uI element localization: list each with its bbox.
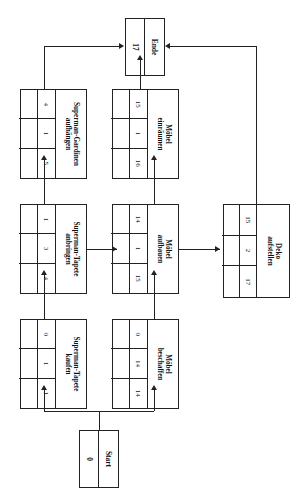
cell-sez bbox=[111, 264, 129, 293]
node-title-line1: Deko bbox=[274, 243, 282, 259]
arrowhead-start-to-moebel-beschaffen bbox=[151, 385, 157, 390]
arrowhead-tapete-kaufen-to-anbringen bbox=[41, 270, 47, 275]
node-title-line1: Möbel bbox=[164, 239, 172, 259]
cell-puffer bbox=[19, 234, 37, 263]
arrowhead-start-to-tapete-kaufen bbox=[41, 385, 47, 390]
edge-tapete-kaufen-to-anbringen bbox=[44, 273, 45, 319]
cell-saz bbox=[222, 205, 239, 236]
node-title: Möbel beschaffen bbox=[148, 320, 178, 408]
node-title-line2: kaufen bbox=[64, 353, 72, 374]
edge-aufbauen-to-einraeumen bbox=[154, 158, 155, 204]
edge-gardinen-to-ende-h bbox=[44, 46, 123, 47]
cell-saz bbox=[19, 90, 37, 119]
edge-start-bus bbox=[44, 411, 154, 412]
cell-dauer: 1 bbox=[37, 349, 55, 378]
node-start[interactable]: Start 0 bbox=[79, 430, 119, 488]
cell-puffer bbox=[19, 119, 37, 148]
node-value-grid: 15 1 16 bbox=[111, 90, 148, 178]
node-title-line2: aufhängen bbox=[64, 118, 72, 150]
node-title-line2: aufbauen bbox=[156, 235, 164, 264]
cell-dauer: 1 bbox=[37, 119, 55, 148]
cell-saz bbox=[111, 320, 129, 349]
cell-dauer: 14 bbox=[129, 349, 147, 378]
cell-dauer: 2 bbox=[239, 236, 256, 267]
edge-start-to-tapete-kaufen bbox=[44, 388, 45, 411]
cell-saz bbox=[111, 90, 129, 119]
node-moebel-aufbauen[interactable]: Möbel aufbauen 14 1 15 bbox=[112, 204, 179, 294]
cell-saz bbox=[111, 205, 129, 234]
cell-dauer: 1 bbox=[129, 234, 147, 263]
node-start-label: Start bbox=[100, 431, 119, 487]
cell-fez: 14 bbox=[129, 379, 147, 408]
cell-dauer: 1 bbox=[129, 119, 147, 148]
edge-anbringen-to-gardinen bbox=[44, 158, 45, 204]
node-ende[interactable]: Ende 17 bbox=[125, 18, 165, 76]
node-title: Superman-Tapete kaufen bbox=[56, 320, 86, 408]
cell-faz: 15 bbox=[129, 90, 147, 119]
node-start-value: 0 bbox=[80, 431, 100, 487]
edge-start-to-moebel-beschaffen bbox=[154, 388, 155, 411]
node-gardinen-aufhaengen[interactable]: Superman-Gardinen aufhängen 4 1 5 bbox=[20, 89, 87, 179]
edge-einraeumen-to-ende bbox=[140, 58, 141, 89]
node-title: Möbel aufbauen bbox=[148, 205, 178, 293]
node-title-line1: Möbel bbox=[164, 354, 172, 374]
node-title: Superman-Tapete anbringen bbox=[56, 205, 86, 293]
arrowhead-anbringen-to-aufbauen bbox=[112, 246, 117, 252]
node-value-grid: 15 2 17 bbox=[222, 205, 257, 297]
node-tapete-kaufen[interactable]: Superman-Tapete kaufen 0 1 1 bbox=[20, 319, 87, 409]
cell-sez bbox=[222, 266, 239, 297]
cell-fez: 17 bbox=[239, 266, 256, 297]
node-title-line1: Möbel bbox=[164, 124, 172, 144]
node-title: Deko aufstellen bbox=[257, 205, 289, 297]
cell-faz: 4 bbox=[37, 90, 55, 119]
node-ende-value: 17 bbox=[126, 19, 146, 75]
node-title-line2: beschaffen bbox=[156, 348, 164, 381]
node-value-grid: 0 14 14 bbox=[111, 320, 148, 408]
cell-fez: 15 bbox=[129, 264, 147, 293]
arrowhead-aufbauen-to-deko bbox=[215, 246, 220, 252]
cell-dauer: 3 bbox=[37, 234, 55, 263]
node-title: Möbel einräumen bbox=[148, 90, 178, 178]
cell-faz: 15 bbox=[239, 205, 256, 236]
edge-beschaffen-to-aufbauen bbox=[154, 273, 155, 319]
edge-deko-to-ende-v bbox=[256, 46, 257, 204]
cell-faz: 1 bbox=[37, 205, 55, 234]
cell-sez bbox=[19, 149, 37, 178]
node-title-line1: Superman-Tapete bbox=[72, 222, 80, 277]
node-title-line2: aufstellen bbox=[266, 236, 274, 266]
arrowhead-gardinen-to-ende bbox=[119, 43, 124, 49]
cell-puffer bbox=[111, 349, 129, 378]
node-title-line1: Superman-Tapete bbox=[72, 337, 80, 392]
arrowhead-aufbauen-to-einraeumen bbox=[151, 155, 157, 160]
cell-puffer bbox=[111, 119, 129, 148]
cell-sez bbox=[19, 264, 37, 293]
cell-fez: 16 bbox=[129, 149, 147, 178]
node-title-line2: einräumen bbox=[156, 117, 164, 150]
node-value-grid: 1 3 4 bbox=[19, 205, 56, 293]
cell-puffer bbox=[19, 349, 37, 378]
node-ende-label: Ende bbox=[146, 19, 165, 75]
arrowhead-anbringen-to-gardinen bbox=[41, 155, 47, 160]
arrowhead-beschaffen-to-aufbauen bbox=[151, 270, 157, 275]
cell-sez bbox=[19, 379, 37, 408]
node-moebel-einraeumen[interactable]: Möbel einräumen 15 1 16 bbox=[112, 89, 179, 179]
cell-sez bbox=[111, 379, 129, 408]
node-title-line1: Superman-Gardinen bbox=[72, 102, 80, 166]
node-title: Superman-Gardinen aufhängen bbox=[56, 90, 86, 178]
edge-deko-to-ende-h bbox=[169, 46, 257, 47]
node-value-grid: 0 1 1 bbox=[19, 320, 56, 408]
cell-fez: 5 bbox=[37, 149, 55, 178]
network-diagram-canvas: Superman-Gardinen aufhängen 4 1 5 Superm… bbox=[0, 0, 301, 503]
cell-faz: 0 bbox=[37, 320, 55, 349]
cell-puffer bbox=[222, 236, 239, 267]
edge-start-trunk bbox=[99, 411, 100, 430]
node-deko-aufstellen[interactable]: Deko aufstellen 15 2 17 bbox=[223, 204, 290, 298]
node-tapete-anbringen[interactable]: Superman-Tapete anbringen 1 3 4 bbox=[20, 204, 87, 294]
arrowhead-deko-to-ende bbox=[165, 43, 170, 49]
cell-sez bbox=[111, 149, 129, 178]
cell-fez: 1 bbox=[37, 379, 55, 408]
node-moebel-beschaffen[interactable]: Möbel beschaffen 0 14 14 bbox=[112, 319, 179, 409]
cell-faz: 0 bbox=[129, 320, 147, 349]
cell-fez: 4 bbox=[37, 264, 55, 293]
node-value-grid: 4 1 5 bbox=[19, 90, 56, 178]
